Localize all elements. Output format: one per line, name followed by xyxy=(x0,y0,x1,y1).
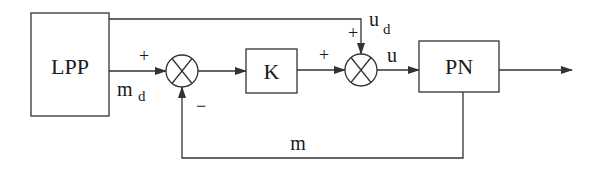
pn-label: PN xyxy=(445,54,473,79)
k-label: K xyxy=(264,59,280,84)
summing-junction-2 xyxy=(345,54,377,86)
u-label: u xyxy=(387,44,397,66)
svg-text:d: d xyxy=(383,21,391,37)
control-block-diagram: LPP K PN + − + + m d u xyxy=(0,0,604,169)
m-label: m xyxy=(290,132,306,154)
pn-block: PN xyxy=(419,41,499,92)
sum1-plus-sign: + xyxy=(139,46,149,66)
md-label: m d xyxy=(117,78,146,104)
svg-text:u: u xyxy=(369,8,379,30)
lpp-label: LPP xyxy=(51,54,89,79)
sum1-minus-sign: − xyxy=(196,96,206,116)
summing-junction-1 xyxy=(166,55,198,87)
sum2-plus-top-sign: + xyxy=(348,23,358,43)
m-feedback-wire xyxy=(182,87,463,158)
ud-label: u d xyxy=(369,8,391,37)
sum2-plus-left-sign: + xyxy=(319,45,329,65)
svg-text:m: m xyxy=(117,78,133,100)
svg-text:d: d xyxy=(138,88,146,104)
k-block: K xyxy=(246,49,297,93)
lpp-block: LPP xyxy=(31,13,109,116)
